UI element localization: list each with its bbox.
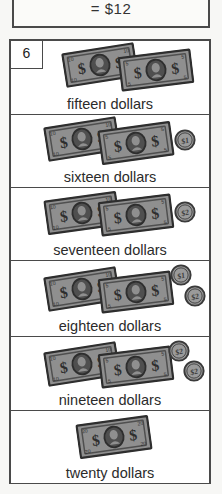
coin-icon: $2 (184, 285, 206, 307)
money-amount-caption: twenty dollars (11, 465, 209, 481)
dollar-bill-icon: $ $ 20 20 20 20 (75, 414, 153, 460)
coin-icon: $1 (174, 129, 196, 151)
money-art: $ $ 10 10 10 10 $ $ 5 5 5 5 $1 (11, 115, 209, 168)
svg-text:10: 10 (52, 224, 59, 231)
money-row: $ $ 10 10 10 10 $ $ 5 5 5 5 $2 seventeen… (11, 188, 209, 261)
money-amount-caption: nineteen dollars (11, 392, 209, 408)
dollar-bill-icon: $ $ 5 5 5 5 (97, 270, 175, 315)
money-amount-caption: seventeen dollars (11, 242, 209, 258)
money-art: $ $ 20 20 20 20 (11, 411, 209, 463)
money-amount-caption: eighteen dollars (11, 318, 209, 334)
svg-text:10: 10 (53, 300, 60, 307)
money-row: $ $ 20 20 20 20 twenty dollars (11, 411, 209, 483)
result-text: = $12 (14, 0, 208, 17)
money-art: $ $ 10 10 10 10 $ $ 5 5 5 5 $1 $2 (11, 261, 209, 317)
svg-text:10: 10 (49, 355, 56, 362)
svg-text:20: 20 (81, 427, 88, 434)
money-row: $ $ 10 10 10 10 $ $ 5 5 5 5 $1 sixteen d… (11, 115, 209, 188)
svg-text:10: 10 (49, 280, 56, 287)
money-art: $ $ 10 10 10 10 $ $ 5 5 5 5 $2 $2 (11, 337, 209, 391)
coin-icon: $2 (183, 360, 205, 382)
svg-text:10: 10 (105, 121, 112, 128)
svg-text:10: 10 (71, 76, 78, 83)
item-number-box: 6 (11, 41, 43, 69)
money-table: $ $ 10 10 10 10 $ $ 5 5 5 5 fifteen doll… (9, 39, 211, 484)
dollar-bill-icon: $ $ 5 5 5 5 (97, 193, 175, 238)
money-amount-caption: fifteen dollars (11, 96, 209, 112)
svg-text:20: 20 (84, 448, 91, 455)
svg-text:10: 10 (67, 56, 74, 63)
money-row: $ $ 10 10 10 10 $ $ 5 5 5 5 $2 $2 ninete… (11, 337, 209, 411)
money-amount-caption: sixteen dollars (11, 169, 209, 185)
svg-text:10: 10 (123, 47, 130, 54)
svg-text:20: 20 (137, 420, 144, 427)
coin-icon: $1 (170, 264, 192, 286)
money-art: $ $ 10 10 10 10 $ $ 5 5 5 5 $2 (11, 188, 209, 241)
dollar-bill-icon: $ $ 5 5 5 5 (117, 48, 195, 93)
svg-text:10: 10 (53, 150, 60, 157)
svg-text:10: 10 (53, 375, 60, 382)
svg-text:10: 10 (49, 130, 56, 137)
svg-text:20: 20 (140, 440, 147, 447)
result-box: = $12 (12, 0, 210, 28)
svg-text:10: 10 (49, 203, 56, 210)
dollar-bill-icon: $ $ 5 5 5 5 (97, 345, 175, 390)
money-row: $ $ 10 10 10 10 $ $ 5 5 5 5 $1 $2 eighte… (11, 261, 209, 337)
coin-icon: $2 (168, 340, 190, 362)
coin-icon: $2 (174, 201, 196, 223)
money-rows: $ $ 10 10 10 10 $ $ 5 5 5 5 fifteen doll… (11, 41, 209, 483)
item-number-label: 6 (11, 45, 42, 61)
